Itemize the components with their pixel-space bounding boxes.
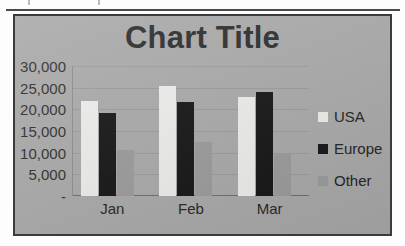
legend-item-other: Other — [318, 172, 390, 189]
bar-group: Feb — [152, 66, 231, 196]
legend-label-europe: Europe — [334, 140, 382, 157]
legend-label-usa: USA — [334, 108, 365, 125]
chart-legend: USA Europe Other — [318, 108, 390, 204]
horizontal-rule — [6, 9, 400, 11]
bar-group: Jan — [73, 66, 152, 196]
scan-artifact — [28, 0, 30, 5]
legend-swatch-other — [318, 176, 328, 186]
bar-usa-feb — [159, 86, 176, 197]
y-axis-tick-label: - — [61, 188, 66, 205]
chart-title: Chart Title — [15, 20, 390, 56]
bar-usa-jan — [81, 101, 98, 196]
x-axis-label-mar: Mar — [230, 200, 309, 217]
bar-group: Mar — [230, 66, 309, 196]
y-axis-tick-label: 15,000 — [20, 123, 66, 140]
y-axis-tick-label: 5,000 — [28, 166, 66, 183]
bar-usa-mar — [238, 97, 255, 196]
legend-item-europe: Europe — [318, 140, 390, 157]
legend-item-usa: USA — [318, 108, 390, 125]
bar-other-feb — [195, 142, 212, 196]
chart-image: Chart Title 30,00025,00020,00015,00010,0… — [0, 0, 405, 246]
y-axis-tick-label: 30,000 — [20, 58, 66, 75]
bar-europe-mar — [256, 92, 273, 196]
x-axis-label-jan: Jan — [73, 200, 152, 217]
bar-europe-feb — [177, 102, 194, 196]
y-axis-tick-label: 20,000 — [20, 101, 66, 118]
legend-label-other: Other — [334, 172, 372, 189]
bar-europe-jan — [99, 113, 116, 196]
scan-artifact — [98, 0, 100, 5]
legend-swatch-europe — [318, 144, 328, 154]
x-axis-label-feb: Feb — [152, 200, 231, 217]
y-axis-tick-label: 10,000 — [20, 144, 66, 161]
legend-swatch-usa — [318, 112, 328, 122]
y-axis-tick-label: 25,000 — [20, 79, 66, 96]
bar-other-mar — [274, 154, 291, 196]
plot-area: 30,00025,00020,00015,00010,0005,000- Jan… — [72, 66, 308, 196]
chart-area: Chart Title 30,00025,00020,00015,00010,0… — [13, 14, 392, 236]
bar-other-jan — [117, 150, 134, 196]
